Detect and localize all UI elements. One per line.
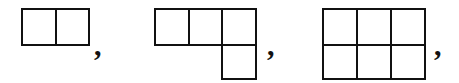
comma-separator: ,: [94, 30, 102, 60]
cell: [188, 8, 223, 46]
figure-2x3-rectangle: [322, 8, 426, 80]
cell: [390, 8, 426, 46]
comma-separator: ,: [434, 30, 442, 60]
cell: [356, 44, 392, 80]
cell: [55, 8, 90, 46]
cell: [322, 44, 358, 80]
cell: [154, 8, 190, 46]
comma-separator: ,: [267, 30, 275, 60]
cell: [356, 8, 392, 46]
cell: [390, 44, 426, 80]
cell: [221, 8, 257, 46]
cell: [322, 8, 358, 46]
cell: [221, 44, 257, 80]
cell: [21, 8, 57, 46]
figure-domino: [21, 8, 90, 46]
figure-l-tetromino: [154, 8, 257, 80]
